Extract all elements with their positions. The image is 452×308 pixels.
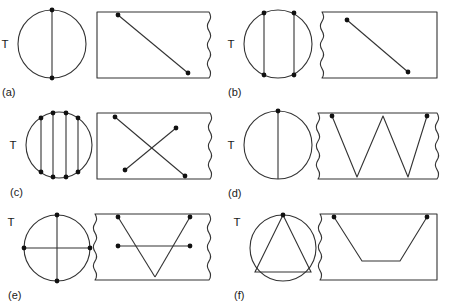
rect-outline-e — [93, 214, 210, 280]
rect-node-d-0 — [330, 114, 335, 119]
rect-line-e-1 — [155, 217, 190, 277]
circle-node-b-2 — [292, 11, 297, 16]
t-label-a: T — [1, 38, 8, 50]
circle-node-e-1 — [55, 279, 60, 284]
rect-line-e-0 — [118, 217, 155, 277]
rect-polyline-d — [332, 116, 427, 177]
t-label-d: T — [227, 139, 234, 151]
rect-node-e-1 — [188, 215, 193, 220]
rect-line-a-0 — [118, 15, 188, 73]
panel-caption-a: (a) — [2, 86, 15, 98]
panel-caption-c: (c) — [10, 186, 23, 198]
circle-node-c-7 — [76, 170, 81, 175]
rect-outline-f — [318, 214, 437, 280]
t-label-b: T — [227, 38, 234, 50]
panel-caption-e: (e) — [8, 289, 21, 301]
rect-line-c-1 — [125, 128, 176, 170]
panel-caption-f: (f) — [234, 289, 244, 301]
panel-c: T(c) — [9, 111, 211, 198]
circle-node-e-2 — [22, 246, 27, 251]
rect-node-c-1 — [183, 174, 188, 179]
circle-outline-c — [26, 112, 92, 178]
t-label-c: T — [9, 139, 16, 151]
rect-outline-b — [320, 12, 437, 78]
panels-group: T(a)T(b)T(c)T(d)T(e)T(f) — [1, 8, 438, 301]
circle-node-b-3 — [292, 73, 297, 78]
panel-a: T(a) — [1, 8, 210, 98]
cross-section-diagram: T(a)T(b)T(c)T(d)T(e)T(f) — [0, 0, 452, 308]
circle-node-b-1 — [262, 73, 267, 78]
rect-node-e-0 — [116, 215, 121, 220]
rect-node-e-2 — [116, 244, 121, 249]
rect-line-c-0 — [115, 117, 185, 176]
rect-node-b-0 — [345, 18, 350, 23]
rect-line-b-0 — [347, 20, 408, 72]
rect-node-a-1 — [186, 71, 191, 76]
circle-node-c-6 — [76, 116, 81, 121]
panel-b: T(b) — [227, 10, 437, 98]
panel-caption-d: (d) — [228, 187, 241, 199]
circle-node-c-4 — [64, 111, 69, 116]
panel-d: T(d) — [227, 109, 438, 199]
rect-node-f-1 — [425, 215, 430, 220]
circle-node-c-5 — [64, 175, 69, 180]
circle-triangle-f — [255, 215, 311, 272]
circle-node-c-1 — [39, 170, 44, 175]
t-label-e: T — [7, 216, 14, 228]
circle-outline-f — [250, 215, 316, 281]
rect-node-c-0 — [113, 115, 118, 120]
rect-node-a-0 — [116, 13, 121, 18]
circle-node-e-3 — [88, 246, 93, 251]
rect-node-f-0 — [332, 215, 337, 220]
circle-node-f-0 — [281, 213, 286, 218]
circle-node-d-0 — [276, 109, 281, 114]
rect-node-d-1 — [425, 114, 430, 119]
circle-node-c-2 — [51, 111, 56, 116]
circle-node-e-0 — [55, 213, 60, 218]
circle-node-c-3 — [51, 175, 56, 180]
panel-f: T(f) — [233, 213, 437, 301]
circle-node-c-0 — [39, 116, 44, 121]
circle-node-b-0 — [262, 11, 267, 16]
rect-node-b-1 — [406, 70, 411, 75]
rect-node-c-3 — [174, 126, 179, 131]
rect-node-e-3 — [188, 244, 193, 249]
t-label-f: T — [233, 216, 240, 228]
circle-outline-b — [244, 10, 312, 78]
circle-node-a-0 — [50, 8, 55, 13]
circle-node-a-1 — [50, 76, 55, 81]
panel-e: T(e) — [7, 213, 210, 301]
panel-caption-b: (b) — [228, 86, 241, 98]
rect-polyline-f — [334, 217, 427, 261]
rect-node-c-2 — [123, 168, 128, 173]
